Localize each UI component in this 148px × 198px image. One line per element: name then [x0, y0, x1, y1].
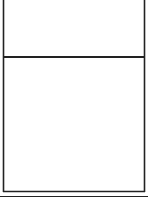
outer-frame	[0, 0, 148, 197]
go-diagram	[0, 0, 148, 198]
